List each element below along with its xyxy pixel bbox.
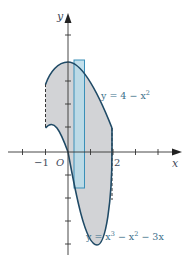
x-axis-label: x [172, 157, 179, 170]
tick-label-neg-one: −1 [34, 157, 49, 168]
lower-curve-label: y = x3 − x2 − 3x [85, 230, 164, 242]
representative-rectangle [74, 60, 85, 188]
y-axis-arrow-icon [65, 13, 72, 23]
origin-label: O [56, 157, 64, 168]
upper-curve-label: y = 4 − x2 [100, 89, 150, 101]
x-axis-arrow-icon [172, 149, 182, 156]
area-between-curves-diagram: y x O −1 2 y = 4 − x2 y = x3 − x2 − 3x [0, 0, 193, 259]
tick-label-two: 2 [114, 157, 120, 168]
y-axis-label: y [56, 10, 64, 23]
